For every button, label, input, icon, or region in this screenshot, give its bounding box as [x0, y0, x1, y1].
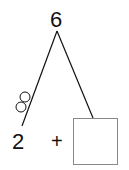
counter-circle-icon — [20, 92, 30, 102]
plus-operator: + — [51, 131, 63, 151]
counter-circle-icon — [16, 102, 26, 112]
left-branch-line — [22, 31, 57, 126]
answer-box[interactable] — [73, 118, 118, 165]
whole-number: 6 — [50, 9, 62, 31]
left-part-number: 2 — [12, 131, 24, 153]
right-branch-line — [57, 31, 93, 118]
